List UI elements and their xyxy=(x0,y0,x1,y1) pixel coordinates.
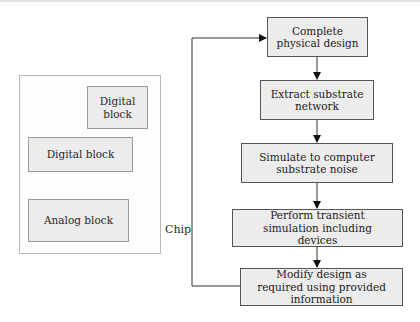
step-simulate-substrate-noise: Simulate to computer substrate noise xyxy=(241,143,393,183)
step-transient-simulation: Perform transient simulation including d… xyxy=(232,209,403,247)
step-extract-substrate-network: Extract substrate network xyxy=(260,80,374,120)
step-complete-physical-design: Complete physical design xyxy=(267,17,368,57)
step-modify-design: Modify design as required using provided… xyxy=(240,268,403,306)
